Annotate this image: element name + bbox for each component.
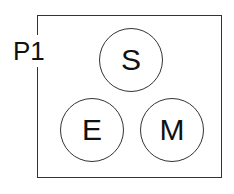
frame-label: P1 xyxy=(12,35,46,67)
node-e: E xyxy=(60,98,124,162)
node-s: S xyxy=(99,28,163,92)
node-m: M xyxy=(140,98,204,162)
